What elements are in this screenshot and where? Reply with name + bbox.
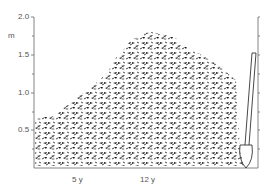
y-tick-1-5: 1.5: [18, 51, 29, 59]
shrub-illustration: [0, 0, 272, 189]
y-tick-0-5: 0.5: [18, 126, 29, 134]
left-axis: [31, 17, 34, 168]
x-label-5-years: 5 y: [72, 176, 83, 184]
x-label-12-years: 12 y: [140, 176, 155, 184]
y-tick-2-0: 2.0: [18, 13, 29, 21]
shovel-icon: [240, 53, 256, 168]
y-unit-label: m: [8, 32, 15, 40]
right-axis: [258, 17, 260, 168]
y-tick-1-0: 1.0: [18, 89, 29, 97]
shrub-foliage: [35, 32, 244, 166]
